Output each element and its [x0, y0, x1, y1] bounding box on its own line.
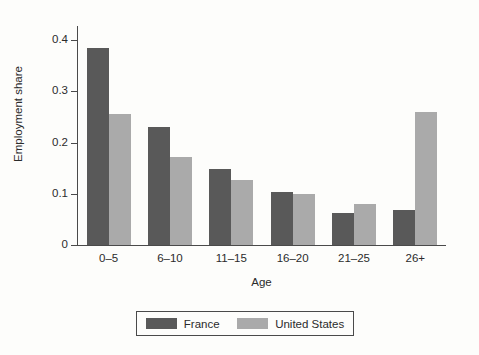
- bar-united-states: [170, 157, 192, 245]
- legend-entry: United States: [237, 318, 344, 330]
- x-axis-title: Age: [77, 276, 446, 288]
- y-axis-tick: [71, 245, 77, 246]
- bar-united-states: [109, 114, 131, 245]
- chart-figure: 00.10.20.30.4 Employment share 0–56–1011…: [0, 0, 479, 355]
- x-axis-category-label: 21–25: [323, 252, 384, 264]
- y-axis-tick-label-text: 0: [32, 239, 68, 251]
- y-axis-tick: [71, 91, 77, 92]
- bar-group: [323, 30, 384, 245]
- x-axis-category-label: 0–5: [78, 252, 139, 264]
- y-axis-tick-label: 0.3: [26, 85, 68, 97]
- legend-swatch-icon: [146, 318, 177, 329]
- y-axis-tick-label: 0.4: [26, 34, 68, 46]
- chart-legend: FranceUnited States: [136, 311, 354, 336]
- bar-group: [139, 30, 200, 245]
- y-axis-tick-label: 0.1: [26, 188, 68, 200]
- y-axis-tick-label-text: 0.2: [32, 137, 68, 149]
- legend-swatch-icon: [237, 318, 268, 329]
- bar-united-states: [293, 194, 315, 245]
- legend-label: United States: [275, 318, 344, 330]
- bar-france: [209, 169, 231, 245]
- y-axis-tick-label: 0.2: [26, 137, 68, 149]
- bar-group: [78, 30, 139, 245]
- bar-group: [262, 30, 323, 245]
- y-axis-title: Employment share: [12, 34, 24, 194]
- x-axis-category-label: 16–20: [262, 252, 323, 264]
- legend-label: France: [184, 318, 220, 330]
- bar-france: [271, 192, 293, 245]
- bar-united-states: [354, 204, 376, 245]
- bar-france: [332, 213, 354, 245]
- bar-france: [87, 48, 109, 245]
- bar-france: [393, 210, 415, 245]
- y-axis-tick-label-text: 0.3: [32, 85, 68, 97]
- x-axis-spine: [77, 245, 446, 246]
- bar-france: [148, 127, 170, 245]
- bar-united-states: [231, 180, 253, 245]
- x-axis-category-label: 11–15: [201, 252, 262, 264]
- x-axis-category-label: 26+: [385, 252, 446, 264]
- plot-area: [78, 30, 446, 245]
- y-axis-tick: [71, 194, 77, 195]
- bar-group: [385, 30, 446, 245]
- y-axis-tick-label: 0: [26, 239, 68, 251]
- bar-group: [201, 30, 262, 245]
- y-axis-tick-label-text: 0.4: [32, 34, 68, 46]
- bar-united-states: [415, 112, 437, 245]
- y-axis-tick: [71, 40, 77, 41]
- x-axis-category-label: 6–10: [139, 252, 200, 264]
- y-axis-tick: [71, 143, 77, 144]
- legend-entry: France: [146, 318, 220, 330]
- y-axis-tick-label-text: 0.1: [32, 188, 68, 200]
